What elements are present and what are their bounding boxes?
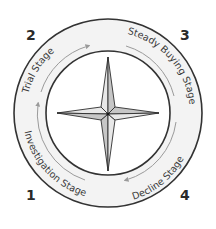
buying-cycle-diagram: Trial Stage Steady Buying Stage Investig…	[0, 0, 216, 229]
stage-number-1: 1	[26, 187, 36, 203]
stage-number-2: 2	[26, 27, 36, 43]
stage-number-4: 4	[180, 187, 190, 203]
stage-number-3: 3	[180, 27, 190, 43]
